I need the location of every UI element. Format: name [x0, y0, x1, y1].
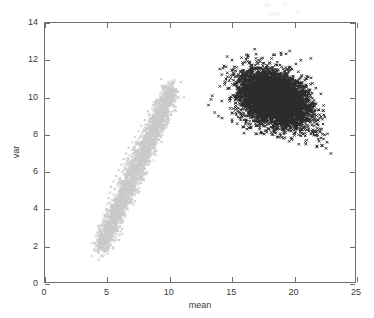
x-tick-label: 20 — [289, 287, 299, 297]
scatter-plot-figure: var mean 02468101214 0510152025 — [0, 0, 374, 318]
plot-area — [44, 22, 356, 283]
y-tick-label: 12 — [28, 54, 38, 64]
scan-artifact — [255, 1, 325, 19]
y-tick — [45, 284, 50, 285]
y-tick-label: 10 — [28, 92, 38, 102]
data-layer — [45, 23, 355, 282]
y-tick-label: 14 — [28, 17, 38, 27]
x-tick-label: 0 — [41, 287, 46, 297]
y-tick-label: 0 — [33, 278, 38, 288]
x-tick — [357, 277, 358, 282]
x-axis-title: mean — [189, 300, 212, 310]
y-tick-label: 4 — [33, 203, 38, 213]
x-tick — [357, 23, 358, 28]
y-tick-label: 2 — [33, 241, 38, 251]
x-tick-label: 15 — [226, 287, 236, 297]
y-tick — [350, 284, 355, 285]
scatter-points-canvas — [45, 23, 355, 282]
y-axis-title: var — [11, 146, 21, 159]
x-tick-label: 10 — [164, 287, 174, 297]
x-tick-label: 5 — [104, 287, 109, 297]
y-tick-label: 6 — [33, 166, 38, 176]
y-tick-label: 8 — [33, 129, 38, 139]
x-tick-label: 25 — [351, 287, 361, 297]
